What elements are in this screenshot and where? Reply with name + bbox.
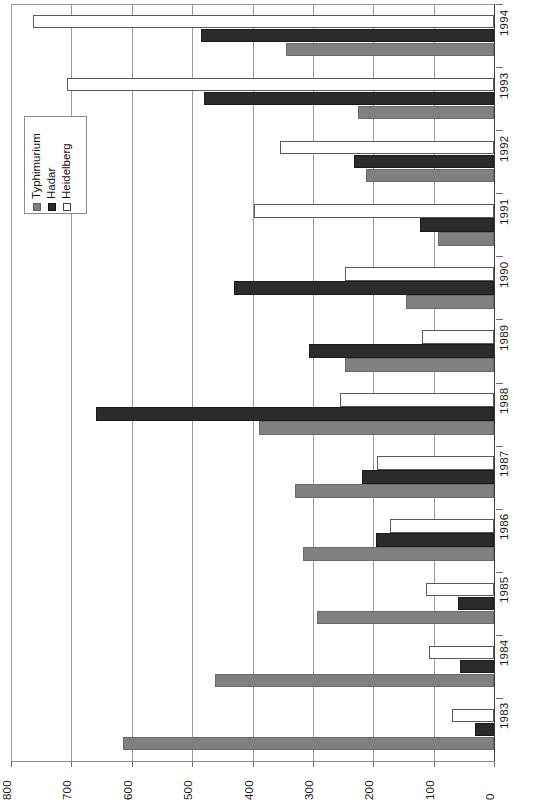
legend: TyphimuriumHadarHeidelberg	[24, 116, 87, 214]
category-label-1987: 1987	[498, 417, 510, 477]
bar-typhimurium-1988	[259, 421, 494, 435]
value-tick-label-300: 300	[303, 760, 315, 800]
category-tick-1989	[496, 319, 503, 320]
legend-label-hadar: Hadar	[45, 168, 58, 199]
legend-item-heidelberg: Heidelberg	[60, 121, 73, 211]
legend-item-hadar: Hadar	[45, 121, 58, 211]
legend-item-typhimurium: Typhimurium	[30, 121, 43, 211]
bar-hadar-1991	[420, 218, 494, 232]
category-tick-1987	[496, 446, 503, 447]
bar-typhimurium-1987	[295, 484, 494, 498]
category-label-1993: 1993	[498, 39, 510, 99]
bar-hadar-1985	[458, 597, 494, 611]
bar-heidelberg-1987	[377, 456, 494, 470]
gridline-300	[313, 4, 314, 761]
gridline-500	[192, 4, 193, 761]
bar-heidelberg-1990	[345, 267, 494, 281]
bar-heidelberg-1986	[390, 519, 494, 533]
category-tick-1994	[496, 4, 503, 5]
value-tick-label-700: 700	[61, 760, 73, 800]
category-tick-1983	[496, 698, 503, 699]
category-tick-1992	[496, 130, 503, 131]
bar-typhimurium-1989	[345, 358, 494, 372]
bar-heidelberg-1994	[33, 15, 494, 29]
category-tick-1990	[496, 256, 503, 257]
category-tick-1984	[496, 635, 503, 636]
value-tick-label-400: 400	[243, 760, 255, 800]
category-label-1989: 1989	[498, 291, 510, 351]
bar-hadar-1986	[376, 533, 494, 547]
category-tick-1993	[496, 67, 503, 68]
value-tick-label-0: 0	[484, 760, 496, 800]
category-label-1984: 1984	[498, 606, 510, 666]
category-tick-1988	[496, 383, 503, 384]
category-tick-1986	[496, 509, 503, 510]
bar-hadar-1994	[201, 29, 494, 43]
legend-swatch-typhimurium-icon	[33, 203, 41, 211]
category-label-1994: 1994	[498, 0, 510, 36]
value-tick-label-200: 200	[363, 760, 375, 800]
bar-typhimurium-1991	[438, 232, 494, 246]
value-tick-label-100: 100	[424, 760, 436, 800]
category-tick-1991	[496, 193, 503, 194]
bar-heidelberg-1993	[67, 78, 494, 92]
bar-typhimurium-1994	[286, 43, 494, 57]
bar-hadar-1987	[362, 470, 494, 484]
gridline-800	[11, 4, 12, 761]
bar-typhimurium-1983	[123, 737, 494, 751]
bar-hadar-1988	[96, 407, 494, 421]
category-tick-1985	[496, 572, 503, 573]
value-axis-tick-labels: 0100200300400500600700800	[0, 770, 534, 812]
bar-hadar-1984	[460, 660, 494, 674]
bar-chart: 0100200300400500600700800 19831984198519…	[0, 0, 534, 812]
category-label-1985: 1985	[498, 543, 510, 603]
legend-label-typhimurium: Typhimurium	[30, 133, 43, 199]
gridline-600	[132, 4, 133, 761]
legend-items: TyphimuriumHadarHeidelberg	[25, 117, 88, 215]
bar-typhimurium-1990	[406, 295, 494, 309]
bar-typhimurium-1993	[358, 106, 494, 120]
category-label-1991: 1991	[498, 165, 510, 225]
bar-hadar-1990	[234, 281, 494, 295]
legend-label-heidelberg: Heidelberg	[60, 143, 73, 199]
bar-typhimurium-1992	[366, 169, 494, 183]
bar-hadar-1989	[309, 344, 494, 358]
category-label-1986: 1986	[498, 480, 510, 540]
value-tick-label-600: 600	[122, 760, 134, 800]
bar-hadar-1993	[204, 92, 494, 106]
value-tick-label-800: 800	[1, 760, 13, 800]
bar-heidelberg-1992	[280, 141, 494, 155]
bar-hadar-1983	[475, 723, 494, 737]
legend-swatch-heidelberg-icon	[63, 203, 71, 211]
bar-typhimurium-1985	[317, 611, 494, 625]
bar-heidelberg-1988	[340, 393, 494, 407]
value-tick-label-500: 500	[182, 760, 194, 800]
gridline-400	[253, 4, 254, 761]
bar-heidelberg-1985	[426, 583, 494, 597]
bar-heidelberg-1983	[452, 709, 494, 723]
category-label-1992: 1992	[498, 102, 510, 162]
legend-swatch-hadar-icon	[48, 203, 56, 211]
category-label-1990: 1990	[498, 228, 510, 288]
bar-hadar-1992	[354, 155, 494, 169]
bar-heidelberg-1989	[422, 330, 494, 344]
bar-heidelberg-1984	[429, 646, 494, 660]
bar-heidelberg-1991	[254, 204, 494, 218]
category-label-1983: 1983	[498, 669, 510, 729]
bar-typhimurium-1986	[303, 547, 494, 561]
category-label-1988: 1988	[498, 354, 510, 414]
bar-typhimurium-1984	[215, 674, 494, 688]
